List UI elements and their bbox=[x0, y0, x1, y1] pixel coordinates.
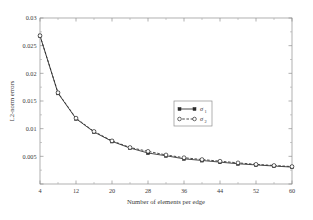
y-tick-label: 0.02 bbox=[26, 70, 37, 77]
data-point-sigma_2 bbox=[290, 165, 294, 169]
data-point-sigma_2 bbox=[110, 139, 114, 143]
x-tick-label: 4 bbox=[38, 187, 41, 194]
legend-marker-1 bbox=[193, 117, 197, 121]
data-point-sigma_2 bbox=[164, 153, 168, 157]
data-point-sigma_2 bbox=[182, 156, 186, 160]
chart-canvas: 4122028364452600.0050.010.0150.020.0250.… bbox=[0, 0, 313, 220]
y-tick-label: 0.01 bbox=[26, 125, 37, 132]
y-tick-label: 0.03 bbox=[26, 14, 37, 21]
data-point-sigma_2 bbox=[218, 159, 222, 163]
legend-marker-0 bbox=[178, 108, 181, 111]
data-point-sigma_2 bbox=[236, 161, 240, 165]
chart-legend: σ1σ2 bbox=[174, 101, 212, 126]
data-point-sigma_2 bbox=[272, 164, 276, 168]
data-point-sigma_2 bbox=[146, 149, 150, 153]
x-tick-label: 60 bbox=[289, 187, 295, 194]
data-point-sigma_2 bbox=[38, 34, 42, 38]
legend-marker-1 bbox=[178, 117, 182, 121]
y-axis-title: L2-norm errors bbox=[8, 80, 15, 121]
figure-background bbox=[0, 0, 313, 220]
data-point-sigma_2 bbox=[200, 158, 204, 162]
legend-subscript-0: 1 bbox=[205, 109, 207, 114]
data-point-sigma_2 bbox=[56, 91, 60, 95]
data-point-sigma_2 bbox=[254, 162, 258, 166]
y-tick-label: 0.005 bbox=[23, 153, 37, 160]
y-tick-label: 0.025 bbox=[23, 42, 37, 49]
x-tick-label: 36 bbox=[181, 187, 187, 194]
legend-subscript-1: 2 bbox=[205, 119, 207, 124]
x-axis-title: Number of elements per edge bbox=[127, 198, 205, 205]
x-tick-label: 44 bbox=[217, 187, 223, 194]
y-tick-label: 0.015 bbox=[23, 97, 37, 104]
x-tick-label: 52 bbox=[253, 187, 259, 194]
data-point-sigma_2 bbox=[74, 116, 78, 120]
chart-figure: 4122028364452600.0050.010.0150.020.0250.… bbox=[0, 0, 313, 220]
x-tick-label: 20 bbox=[109, 187, 115, 194]
legend-marker-0 bbox=[193, 108, 196, 111]
x-tick-label: 28 bbox=[145, 187, 151, 194]
data-point-sigma_2 bbox=[128, 146, 132, 150]
x-tick-label: 12 bbox=[73, 187, 79, 194]
data-point-sigma_2 bbox=[92, 130, 96, 134]
